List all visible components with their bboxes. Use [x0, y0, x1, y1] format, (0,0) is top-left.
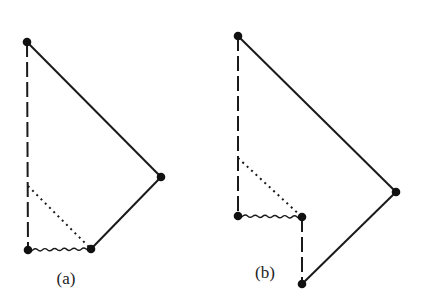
node-mid-right — [298, 213, 307, 222]
edge-solid — [302, 192, 396, 284]
panel-b — [234, 32, 401, 289]
edge-solid — [238, 36, 396, 192]
panel-a-label: (a) — [57, 269, 76, 288]
edge-dashed — [27, 42, 28, 250]
node-right — [157, 173, 166, 182]
panel-a — [23, 38, 166, 255]
panel-b-label: (b) — [255, 263, 275, 282]
diagram-canvas: (a) (b) — [0, 0, 421, 307]
edge-solid — [91, 177, 161, 249]
node-bottom-right — [87, 245, 96, 254]
node-right — [392, 188, 401, 197]
node-top — [23, 38, 32, 47]
edge-dotted — [238, 158, 302, 217]
edge-wavy — [28, 248, 91, 251]
node-bottom — [298, 280, 307, 289]
edge-solid — [27, 42, 161, 177]
node-top — [234, 32, 243, 41]
edge-wavy — [238, 215, 302, 218]
node-bottom-left — [24, 246, 33, 255]
edge-dotted — [28, 186, 91, 249]
node-mid-left — [234, 212, 243, 221]
